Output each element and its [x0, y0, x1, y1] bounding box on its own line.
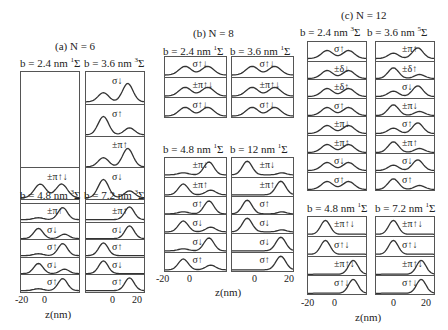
orbital-label: σ↑ — [47, 277, 57, 287]
orbital-row: σ↓ — [376, 153, 434, 172]
orbital-row — [21, 104, 79, 136]
orbital-label: σ↑ — [402, 175, 412, 185]
orbital-row: ±π↑↓ — [308, 256, 366, 275]
orbital-label: σ↓ — [402, 82, 412, 92]
orbital-row: σ↑↓ — [232, 97, 293, 117]
x-tick-label: 0 — [252, 273, 257, 284]
orbital-row: σ↓ — [308, 153, 366, 172]
orbital-stack: ±π↑↓σ↑↓±π↑↓σ↑↓ — [375, 216, 435, 295]
orbital-row: ±π↑ — [86, 136, 144, 168]
orbital-label: ±π↑ — [112, 206, 128, 216]
x-tick-label: 0 — [42, 294, 47, 305]
group-title: (c) N = 12 — [341, 9, 387, 21]
x-axis-label: z(nm) — [45, 308, 71, 320]
orbital-row — [21, 72, 79, 104]
orbital-label: σ↓ — [47, 225, 57, 235]
orbital-row: ±δ↓ — [308, 61, 366, 80]
orbital-label: σ↑↓ — [259, 59, 274, 69]
orbital-label: σ↑↓ — [192, 100, 207, 110]
orbital-row: ±π↑ — [21, 204, 79, 222]
orbital-label: σ↓ — [112, 172, 122, 182]
sigma-symbol: Σ — [429, 202, 435, 214]
orbital-label: ±π↑ — [402, 138, 418, 148]
orbital-label: σ↑↓ — [334, 240, 349, 250]
orbital-label: σ↓ — [259, 218, 269, 228]
orbital-row: ±π↑↓ — [376, 256, 434, 275]
panel-title: b = 3.6 nm 3Σ — [84, 56, 144, 69]
sigma-symbol: Σ — [361, 202, 367, 214]
orbital-label: σ↓ — [192, 218, 202, 228]
orbital-label: σ↑ — [112, 109, 122, 119]
orbital-label: σ↓ — [47, 260, 57, 270]
orbital-label: σ↑ — [334, 44, 344, 54]
orbital-label: ±π↓ — [402, 101, 418, 111]
orbital-label: σ↑ — [47, 242, 57, 252]
orbital-label: σ↑↓ — [402, 240, 417, 250]
orbital-row: ±π↓ — [308, 116, 366, 135]
panel-title: b = 4.8 nm 1Σ — [163, 142, 223, 155]
orbital-label: σ↑ — [112, 277, 122, 287]
orbital-row: ±δ↑ — [308, 79, 366, 98]
group-title: (b) N = 8 — [193, 27, 234, 39]
panel-b-value: b = 4.8 nm — [20, 189, 68, 201]
orbital-stack: ±π↓±π↑σ↑σ↓σ↓σ↑ — [164, 157, 227, 272]
x-axis-label: z(nm) — [215, 286, 241, 298]
orbital-label: σ↓ — [112, 76, 122, 86]
orbital-row: σ↑↓ — [376, 275, 434, 294]
orbital-row: σ↑ — [21, 239, 79, 257]
group-title: (a) N = 6 — [55, 40, 95, 52]
orbital-label: ±π↑↓ — [192, 80, 213, 90]
orbital-row: ±π↑ — [165, 177, 226, 196]
panel-b-value: b = 4.8 nm — [163, 143, 211, 155]
orbital-stack: σ↑↓±π↑↓σ↑↓ — [164, 56, 227, 118]
x-tick-label: -20 — [15, 294, 28, 305]
sigma-symbol: Σ — [284, 45, 290, 57]
orbital-row: σ↑ — [165, 196, 226, 215]
orbital-label: ±π↑ — [112, 140, 128, 150]
orbital-row: σ↑↓ — [308, 275, 366, 294]
orbital-label: ±π↑↓ — [259, 80, 280, 90]
orbital-label: ±δ↓ — [334, 64, 349, 74]
orbital-label: ±π↑ — [402, 44, 418, 54]
orbital-label: ±π↓ — [259, 160, 275, 170]
sigma-symbol: Σ — [217, 45, 223, 57]
orbital-stack: ±π↑σ↓σ↑σ↓σ↑ — [85, 203, 145, 293]
orbital-row: σ↑ — [86, 239, 144, 257]
orbital-label: ±π↓ — [192, 160, 208, 170]
panel-b-value: b = 3.6 nm — [230, 45, 278, 57]
orbital-row: σ↑↓ — [165, 57, 226, 77]
panel-title: b = 2.4 nm 1Σ — [20, 56, 80, 69]
orbital-label: ±π↑↓ — [402, 259, 423, 269]
panel-title: b = 4.8 nm 3Σ — [20, 188, 80, 201]
sigma-symbol: Σ — [138, 57, 144, 69]
orbital-row: ±π↑ — [232, 177, 293, 196]
orbital-row: σ↑ — [308, 172, 366, 191]
x-tick-label: -20 — [156, 273, 169, 284]
panel-b-value: b = 7.2 nm — [375, 202, 423, 214]
orbital-row: σ↑ — [21, 274, 79, 292]
panel-title: b = 2.4 nm 1Σ — [163, 44, 223, 57]
orbital-stack: ±π↓±π↑σ↑σ↓σ↓σ↑ — [231, 157, 294, 272]
orbital-row: ±π↑↓ — [308, 217, 366, 236]
orbital-row: σ↓ — [165, 233, 226, 252]
orbital-label: σ↑ — [402, 119, 412, 129]
orbital-row: σ↓ — [165, 214, 226, 233]
orbital-label: σ↓ — [192, 237, 202, 247]
orbital-row: ±π↑ — [376, 42, 434, 61]
orbital-label: σ↑↓ — [402, 278, 417, 288]
orbital-stack: ±π↑↓σ↑↓±π↑↓σ↑↓ — [307, 216, 367, 295]
orbital-stack: ±π↑σ↓σ↑σ↓σ↑ — [20, 203, 80, 293]
orbital-row: σ↓ — [376, 79, 434, 98]
panel-b-value: b = 2.4 nm — [20, 57, 68, 69]
orbital-label: σ↑↓ — [334, 278, 349, 288]
orbital-label: σ↑ — [334, 175, 344, 185]
orbital-label: σ↓ — [402, 156, 412, 166]
orbital-row: σ↑ — [376, 116, 434, 135]
orbital-row: σ↓ — [232, 233, 293, 252]
orbital-label: ±π↑↓ — [334, 259, 355, 269]
sigma-symbol: Σ — [74, 189, 80, 201]
panel-title: b = 3.6 nm 5Σ — [367, 25, 427, 38]
orbital-label: ±π↑ — [259, 180, 275, 190]
orbital-row: ±π↑↓ — [165, 77, 226, 97]
orbital-label: ±π↑ — [334, 138, 350, 148]
